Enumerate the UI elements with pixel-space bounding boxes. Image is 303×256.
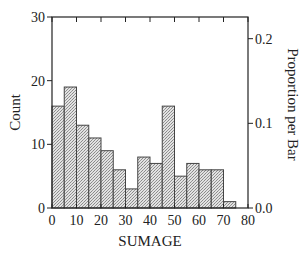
y-tick-label: 10 (31, 137, 45, 152)
histogram-bar (199, 170, 211, 208)
histogram-bar (113, 170, 125, 208)
y-tick-label: 20 (31, 74, 45, 89)
histogram-bar (89, 138, 101, 208)
histogram-bar (187, 163, 199, 208)
histogram-bar (64, 87, 76, 208)
x-tick-label: 10 (70, 213, 84, 228)
y-tick-label: 30 (31, 10, 45, 25)
x-axis-title: SUMAGE (118, 233, 181, 249)
x-tick-label: 50 (168, 213, 182, 228)
histogram-bar (162, 106, 174, 208)
histogram-bar (224, 202, 236, 208)
x-tick-label: 40 (143, 213, 157, 228)
x-tick-label: 0 (49, 213, 56, 228)
y2-tick-label: 0.1 (255, 116, 273, 131)
histogram-chart: 01020304050607080 0102030 0.00.10.2 SUMA… (0, 0, 303, 256)
x-tick-label: 60 (192, 213, 206, 228)
histogram-bar (138, 157, 150, 208)
x-tick-label: 20 (94, 213, 108, 228)
y-axis-title: Count (7, 93, 23, 131)
histogram-bar (77, 125, 89, 208)
x-tick-label: 30 (119, 213, 133, 228)
x-tick-label: 70 (217, 213, 231, 228)
histogram-bar (126, 189, 138, 208)
histogram-bar (101, 151, 113, 208)
y-tick-label: 0 (38, 201, 45, 216)
histogram-bar (211, 170, 223, 208)
histogram-bar (52, 106, 64, 208)
y2-tick-label: 0.2 (255, 32, 273, 47)
y-axis-right: 0.00.10.2 (248, 32, 273, 216)
y2-tick-label: 0.0 (255, 201, 273, 216)
x-tick-label: 80 (241, 213, 255, 228)
histogram-bar (175, 176, 187, 208)
y-axis-left: 0102030 (31, 10, 52, 216)
histogram-bar (150, 163, 162, 208)
histogram-bars (52, 87, 236, 208)
y2-axis-title: Proportion per Bar (285, 48, 301, 160)
